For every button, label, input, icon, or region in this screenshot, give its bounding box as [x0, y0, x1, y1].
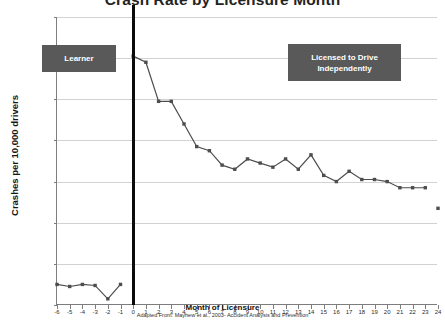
series-marker: [93, 284, 96, 287]
series-marker: [360, 178, 363, 181]
series-marker: [398, 186, 401, 189]
annotation-licensed-label: Licensed to Drive Independently: [311, 52, 378, 74]
series-marker: [297, 168, 300, 171]
series-marker: [144, 61, 147, 64]
series-marker: [424, 186, 427, 189]
series-marker: [347, 170, 350, 173]
series-line: [57, 284, 121, 298]
annotation-learner-label: Learner: [64, 53, 93, 64]
series-marker: [233, 168, 236, 171]
series-marker: [411, 186, 414, 189]
series-marker: [106, 297, 109, 300]
series-marker: [436, 207, 439, 210]
series-marker: [246, 157, 249, 160]
series-marker: [208, 149, 211, 152]
x-axis-title: Month of Licensure: [0, 303, 445, 312]
chart-title: Crash Rate by Licensure Month: [0, 0, 445, 9]
series-marker: [259, 161, 262, 164]
series-marker: [68, 285, 71, 288]
y-axis-title: Crashes per 10,000 drivers: [9, 56, 20, 256]
series-marker: [119, 283, 122, 286]
phase-divider-line: [132, 5, 135, 305]
annotation-licensed: Licensed to Drive Independently: [288, 44, 401, 81]
series-marker: [373, 178, 376, 181]
source-note: Adapted From: Mayhew et al., 2003- Accid…: [0, 312, 445, 318]
series-marker: [386, 180, 389, 183]
series-marker: [55, 283, 58, 286]
annotation-licensed-line2: Independently: [317, 64, 371, 73]
chart-root: Crash Rate by Licensure Month 0204060801…: [0, 0, 445, 321]
series-marker: [195, 145, 198, 148]
annotation-licensed-line1: Licensed to Drive: [311, 53, 378, 62]
series-marker: [220, 163, 223, 166]
series-marker: [157, 100, 160, 103]
series-marker: [309, 153, 312, 156]
series-marker: [335, 180, 338, 183]
series-marker: [322, 174, 325, 177]
series-marker: [271, 165, 274, 168]
annotation-learner: Learner: [42, 45, 116, 72]
series-marker: [182, 122, 185, 125]
series-marker: [81, 283, 84, 286]
series-marker: [284, 157, 287, 160]
series-marker: [170, 100, 173, 103]
